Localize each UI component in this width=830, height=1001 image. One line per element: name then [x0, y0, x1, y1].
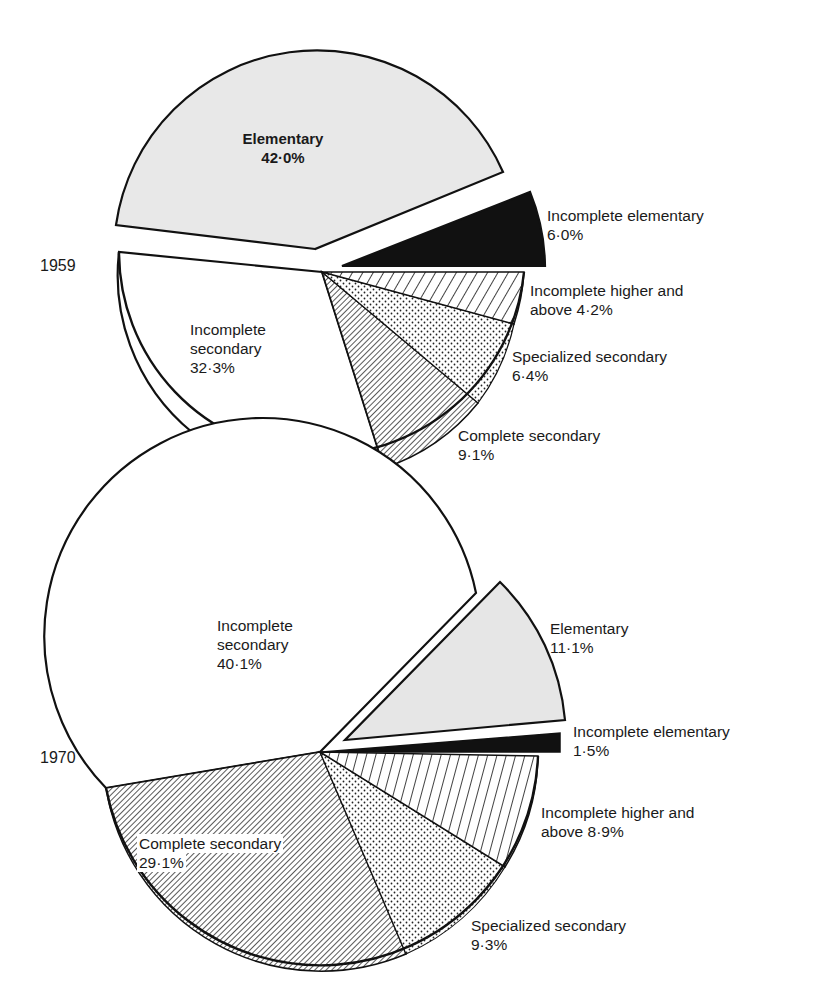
label-1959-elementary: Elementary 42·0%	[228, 129, 338, 167]
label-1970-incomplete-elementary: Incomplete elementary 1·5%	[573, 722, 730, 760]
pie-1959	[116, 50, 545, 478]
label-1959-incomplete-secondary: Incomplete secondary 32·3%	[190, 320, 266, 377]
label-1959-incomplete-higher: Incomplete higher and above 4·2%	[530, 281, 683, 319]
year-label-1959: 1959	[40, 257, 76, 275]
label-1959-complete-secondary: Complete secondary 9·1%	[458, 426, 600, 464]
label-1959-incomplete-elementary: Incomplete elementary 6·0%	[547, 206, 704, 244]
label-1970-incomplete-secondary: Incomplete secondary 40·1%	[217, 616, 293, 673]
label-1959-specialized-secondary: Specialized secondary 6·4%	[512, 347, 667, 385]
pie-1970	[44, 418, 565, 971]
pie-charts	[0, 0, 830, 1001]
label-1970-elementary: Elementary 11·1%	[550, 619, 628, 657]
label-1970-specialized-secondary: Specialized secondary 9·3%	[471, 916, 626, 954]
year-label-1970: 1970	[40, 749, 76, 767]
label-1970-incomplete-higher: Incomplete higher and above 8·9%	[541, 803, 694, 841]
label-1970-complete-secondary: Complete secondary 29·1%	[137, 834, 283, 872]
